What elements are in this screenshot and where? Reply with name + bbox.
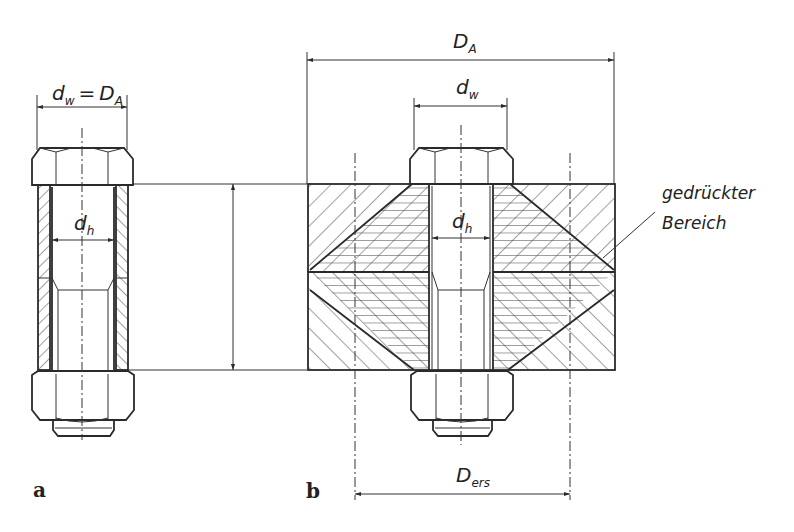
panel-b-plate-joint: DA dw <box>300 29 756 503</box>
label-ders: Ders <box>456 463 490 490</box>
annotation-line-2: Bereich <box>662 213 726 233</box>
panel-label-b: b <box>306 479 320 503</box>
nut <box>32 371 134 436</box>
nut-b <box>411 371 513 436</box>
annotation-line-1: gedrückter <box>662 183 756 203</box>
panel-a-sleeve-bolt: dw=DA <box>32 81 134 502</box>
dimension-dw-da: dw=DA <box>37 81 127 150</box>
dimension-lk <box>128 184 307 370</box>
bolted-joint-diagram: dw=DA <box>0 0 794 532</box>
label-dh-a: dh <box>74 211 94 238</box>
label-da: DA <box>453 29 477 56</box>
panel-label-a: a <box>33 478 46 502</box>
dimension-ders: Ders <box>355 463 570 494</box>
label-dw-equals-da: dw=DA <box>52 81 123 108</box>
annotation-compressed-area: gedrückter Bereich <box>603 183 756 258</box>
label-dw: dw <box>456 75 479 102</box>
dimension-dh-a: dh <box>52 211 114 240</box>
